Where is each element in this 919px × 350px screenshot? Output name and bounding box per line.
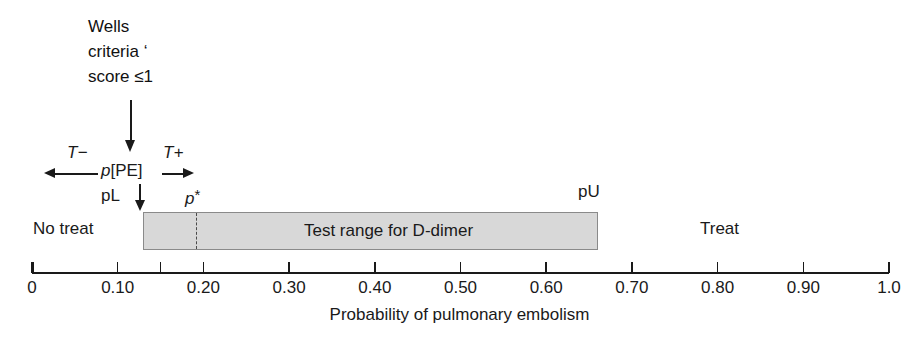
lower-threshold-arrow-down-icon	[134, 184, 146, 212]
wells-criteria-annotation: Wells criteria ‘ score ≤1	[88, 14, 153, 89]
axis-tick	[631, 262, 633, 273]
test-positive-arrow-right-icon	[162, 168, 194, 180]
axis-tick-label: 0.40	[358, 278, 391, 298]
p-pe-bracket: [PE]	[110, 161, 142, 180]
axis-tick	[460, 262, 462, 273]
axis-tick	[288, 262, 290, 273]
axis-tick-label: 1.0	[877, 278, 901, 298]
axis-tick	[31, 262, 33, 273]
axis-tick-label: 0.70	[615, 278, 648, 298]
test-negative-label: T−	[67, 143, 87, 163]
axis-tick	[160, 262, 162, 273]
axis-tick	[374, 262, 376, 273]
axis-tick	[717, 262, 719, 273]
test-negative-arrow-left-icon	[44, 168, 98, 180]
axis-tick	[117, 262, 119, 273]
test-range-band: Test range for D-dimer	[143, 212, 597, 250]
test-positive-label: T+	[163, 143, 183, 163]
treatment-threshold-label: p*	[185, 186, 200, 209]
axis-tick-label: 0.20	[187, 278, 220, 298]
lower-threshold-label: pL	[101, 186, 120, 206]
axis-tick-label: 0	[27, 278, 36, 298]
axis-tick	[203, 262, 205, 273]
p-pe-label: p[PE]	[101, 161, 143, 181]
axis-tick-label: 0.30	[273, 278, 306, 298]
wells-criteria-arrow-down-icon	[129, 100, 132, 152]
test-range-band-label: Test range for D-dimer	[144, 213, 596, 249]
p-star-asterisk: *	[194, 186, 200, 203]
no-treat-region-label: No treat	[33, 219, 93, 239]
axis-title: Probability of pulmonary embolism	[0, 305, 919, 325]
decision-threshold-figure: Wells criteria ‘ score ≤1 T− T+ p[PE] pL…	[0, 0, 919, 350]
axis-tick-label: 0.60	[530, 278, 563, 298]
axis-tick	[803, 262, 805, 273]
axis-tick-label: 0.80	[701, 278, 734, 298]
axis-tick	[888, 262, 890, 273]
axis-tick-label: 0.50	[444, 278, 477, 298]
axis-tick	[545, 262, 547, 273]
axis-tick-label: 0.90	[787, 278, 820, 298]
treat-region-label: Treat	[700, 219, 739, 239]
upper-threshold-label: pU	[578, 182, 600, 202]
axis-tick-label: 0.10	[101, 278, 134, 298]
